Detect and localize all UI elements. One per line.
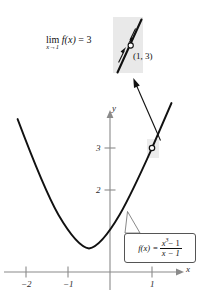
inset-open-circle-hole: [128, 43, 133, 48]
formula-expression: f(x) = x3− 1 x − 1: [128, 236, 192, 260]
limit-value: 3: [86, 34, 91, 45]
inset-leader-arrow-group: [133, 78, 160, 141]
y-tick-label-3: 3: [96, 144, 101, 153]
inset-approach-arrow-left-head: [121, 47, 127, 53]
y-axis-label: y: [112, 104, 116, 113]
formula-equals: =: [153, 243, 158, 253]
function-curve-group: [18, 103, 172, 249]
x-axis-label: x: [186, 265, 190, 274]
formula-lhs: f(x): [138, 243, 150, 253]
x-tick-label-1: 1: [150, 280, 155, 289]
formula-fraction: x3− 1 x − 1: [160, 237, 182, 259]
limit-operator-stack: lim x→1: [46, 35, 59, 51]
open-circle-hole-marker: [149, 145, 154, 150]
x-tick-label--2: −2: [21, 280, 32, 289]
formula-pointer-group: [125, 212, 140, 234]
x-axis-arrowhead: [176, 269, 184, 276]
limit-statement: lim x→1 f(x) = 3: [46, 33, 91, 49]
curve-right-branch: [152, 103, 172, 148]
y-tick-label-2: 2: [96, 186, 101, 195]
formula-pointer-tail: [125, 212, 140, 234]
limit-graph-figure: lim x→1 f(x) = 3 (1, 3) f(x) = x3− 1 x −…: [0, 0, 201, 298]
formula-numerator-rest: − 1: [169, 238, 180, 248]
inset-leader-arrow-shaft: [137, 86, 161, 141]
point-coordinate-label: (1, 3): [133, 52, 153, 61]
x-tick-label--1: −1: [63, 280, 74, 289]
limit-function: f(x): [62, 34, 76, 45]
inset-content-group: [118, 20, 142, 73]
inset-leader-arrow-head: [133, 78, 140, 88]
limit-subscript: x→1: [46, 44, 59, 51]
limit-equals: =: [78, 34, 84, 45]
formula-denominator: x − 1: [160, 249, 182, 259]
